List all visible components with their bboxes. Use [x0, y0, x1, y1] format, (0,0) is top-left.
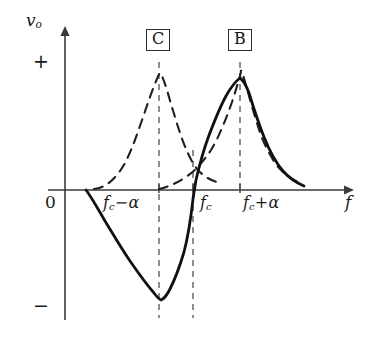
y-axis-negative-label: − — [33, 296, 49, 315]
x-axis-label: f — [345, 194, 351, 211]
discriminator-response-figure: vo + − 0 fc−α fc fc+α f C B — [0, 0, 371, 341]
tick-label-fc-plus-alpha: fc+α — [243, 195, 279, 212]
origin-label: 0 — [45, 194, 56, 211]
y-axis-arrowhead — [60, 26, 69, 36]
discriminator-output-solid-curve — [86, 78, 304, 300]
y-axis-label: vo — [26, 12, 42, 30]
tick-label-fc: fc — [200, 195, 211, 212]
callout-box-c: C — [146, 29, 170, 51]
tick-label-fc-minus-alpha: fc−α — [103, 195, 139, 212]
y-axis-positive-label: + — [33, 52, 49, 71]
x-axis-ticks — [159, 184, 240, 193]
callout-box-b: B — [228, 29, 252, 51]
plot-canvas — [0, 0, 371, 341]
